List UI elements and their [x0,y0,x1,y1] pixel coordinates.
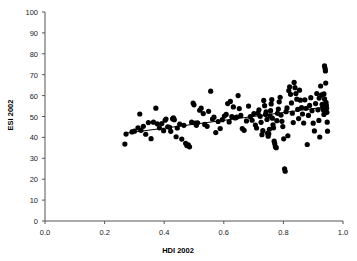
data-point [317,96,322,101]
data-point [146,120,151,125]
x-tick-label: 0.4 [159,228,169,237]
y-tick-label: 100 [0,8,38,17]
data-point [211,115,216,120]
data-point [288,92,293,97]
data-point [285,133,290,138]
y-tick-label: 30 [0,154,38,163]
data-point [246,103,251,108]
data-point [292,80,297,85]
data-point [277,99,282,104]
data-point [181,123,186,128]
x-tick-label: 0.0 [40,228,50,237]
data-point [250,118,255,123]
data-point [199,106,204,111]
data-point [299,105,304,110]
data-point [231,104,236,109]
data-point [218,126,223,131]
data-point [297,88,302,93]
data-point [276,106,281,111]
y-axis-title: ESI 2002 [6,100,15,131]
y-tick-label: 10 [0,196,38,205]
data-point [205,124,210,129]
data-point [163,116,168,121]
data-point [258,120,263,125]
data-point [314,91,319,96]
data-point [292,85,297,90]
data-point [269,101,274,106]
data-point [290,111,295,116]
data-point [296,116,301,121]
data-point [266,131,271,136]
scatter-chart: 0102030405060708090100 0.00.20.40.60.81.… [0,0,357,261]
data-point [308,95,313,100]
data-point [324,110,329,115]
x-axis-title: HDI 2002 [162,246,194,255]
data-point [254,125,259,130]
data-point [278,95,283,100]
data-point [241,128,246,133]
data-point [238,113,243,118]
data-point [141,124,146,129]
data-point [271,125,276,130]
y-tick-label: 90 [0,28,38,37]
data-point [168,129,173,134]
data-points [122,63,330,174]
y-tick-label: 20 [0,175,38,184]
y-tick-label: 80 [0,49,38,58]
x-tick-label: 0.6 [219,228,229,237]
data-point [123,131,128,136]
data-point [208,89,213,94]
data-point [317,134,322,139]
data-point [302,97,307,102]
data-point [256,107,261,112]
data-point [270,116,275,121]
data-point [307,103,312,108]
data-point [306,113,311,118]
data-point [261,98,266,103]
data-point [161,128,166,133]
data-point [318,83,323,88]
y-tick-label: 40 [0,133,38,142]
data-point [291,120,296,125]
data-point [305,142,310,147]
x-tick-label: 1.0 [338,228,348,237]
data-point [323,68,328,73]
data-point [289,100,294,105]
data-point [309,108,314,113]
data-point [137,111,142,116]
data-point [274,145,279,150]
data-point [174,134,179,139]
data-point [325,129,330,134]
data-point [143,132,148,137]
data-point [301,120,306,125]
data-point [244,118,249,123]
data-point [325,120,330,125]
x-tick-label: 0.8 [278,228,288,237]
data-point [283,169,288,174]
data-point [281,136,286,141]
data-point [172,117,177,122]
y-tick-label: 0 [0,217,38,226]
data-point [237,106,242,111]
data-point [298,98,303,103]
y-tick-label: 70 [0,70,38,79]
x-tick-label: 0.2 [99,228,109,237]
data-point [236,93,241,98]
data-point [316,118,321,123]
data-point [260,128,265,133]
data-point [179,136,184,141]
data-point [258,114,263,119]
data-point [148,136,153,141]
data-point [311,121,316,126]
plot-area [0,0,357,261]
data-point [300,111,305,116]
data-point [122,141,127,146]
data-point [264,109,269,114]
data-point [287,84,292,89]
data-point [315,107,320,112]
data-point [269,97,274,102]
data-point [313,101,318,106]
data-point [278,112,283,117]
data-point [262,103,267,108]
data-point [153,106,158,111]
